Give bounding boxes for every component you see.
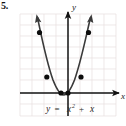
equation-lhs: y — [45, 104, 51, 114]
x-axis-label: x — [120, 91, 125, 101]
equation-term1-exponent: 2 — [72, 103, 75, 109]
equation-term2: x — [89, 104, 95, 114]
data-point — [44, 74, 49, 79]
equation-equals: = — [55, 104, 60, 114]
data-point — [65, 90, 70, 95]
graph-figure: 5. — [0, 0, 126, 126]
parabola-graph: y x y = x 2 + x — [0, 0, 126, 126]
data-point — [78, 74, 83, 79]
y-axis-label: y — [71, 2, 76, 12]
data-point — [58, 90, 63, 95]
data-point — [86, 30, 91, 35]
data-point — [37, 30, 42, 35]
equation-plus: + — [79, 104, 84, 114]
